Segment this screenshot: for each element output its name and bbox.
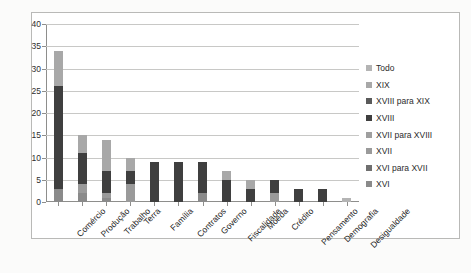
bar-segment[interactable] bbox=[102, 140, 111, 171]
bar-slot bbox=[46, 24, 70, 202]
bar-slot bbox=[142, 24, 166, 202]
bar-slot bbox=[190, 24, 214, 202]
bar-segment[interactable] bbox=[126, 158, 135, 171]
x-axis-tick-mark bbox=[203, 202, 204, 206]
bar-segment[interactable] bbox=[270, 180, 279, 193]
legend-label: Todo bbox=[376, 63, 394, 73]
bar-segment[interactable] bbox=[78, 135, 87, 153]
stacked-bar[interactable] bbox=[222, 171, 231, 202]
legend-swatch-icon bbox=[366, 132, 372, 138]
bar-slot bbox=[118, 24, 142, 202]
bar-segment[interactable] bbox=[78, 193, 87, 202]
bar-segment[interactable] bbox=[126, 171, 135, 184]
stacked-bar[interactable] bbox=[126, 158, 135, 202]
stacked-bar[interactable] bbox=[174, 162, 183, 202]
bar-slot bbox=[263, 24, 287, 202]
legend-label: XVII para XVIII bbox=[376, 130, 432, 140]
stacked-bar[interactable] bbox=[198, 162, 207, 202]
x-axis-tick-mark bbox=[347, 202, 348, 206]
y-axis-tick-label: 20 bbox=[11, 108, 41, 118]
y-axis-tick-label: 10 bbox=[11, 153, 41, 163]
bar-segment[interactable] bbox=[318, 189, 327, 202]
chart-screenshot: { "chart_data": { "type": "bar", "subtyp… bbox=[0, 0, 471, 273]
legend-swatch-icon bbox=[366, 98, 372, 104]
bar-segment[interactable] bbox=[150, 162, 159, 202]
x-axis-tick-mark bbox=[323, 202, 324, 206]
x-axis-tick-mark bbox=[251, 202, 252, 206]
bar-slot bbox=[287, 24, 311, 202]
legend-swatch-icon bbox=[366, 181, 372, 187]
x-axis-tick-mark bbox=[227, 202, 228, 206]
legend-item[interactable]: XVI bbox=[366, 176, 466, 193]
bar-slot bbox=[166, 24, 190, 202]
x-axis-tick-mark bbox=[130, 202, 131, 206]
stacked-bar[interactable] bbox=[54, 51, 63, 202]
x-axis-tick-mark bbox=[178, 202, 179, 206]
bar-series-group bbox=[46, 24, 359, 202]
bar-segment[interactable] bbox=[246, 180, 255, 189]
bar-slot bbox=[70, 24, 94, 202]
bar-segment[interactable] bbox=[78, 184, 87, 193]
legend-label: XVI bbox=[376, 179, 390, 189]
y-axis-tick-label: 5 bbox=[11, 175, 41, 185]
bar-segment[interactable] bbox=[222, 171, 231, 180]
legend-label: XVI para XVII bbox=[376, 163, 428, 173]
x-axis-tick-mark bbox=[106, 202, 107, 206]
legend-swatch-icon bbox=[366, 165, 372, 171]
bar-segment[interactable] bbox=[270, 193, 279, 202]
chart-legend: TodoXIXXVIII para XIXXVIIIXVII para XVII… bbox=[366, 60, 466, 193]
legend-swatch-icon bbox=[366, 65, 372, 71]
legend-swatch-icon bbox=[366, 82, 372, 88]
legend-item[interactable]: XVIII para XIX bbox=[366, 93, 466, 110]
bar-slot bbox=[94, 24, 118, 202]
stacked-bar[interactable] bbox=[270, 180, 279, 202]
stacked-bar[interactable] bbox=[150, 162, 159, 202]
bar-slot bbox=[215, 24, 239, 202]
stacked-bar[interactable] bbox=[102, 140, 111, 202]
scan-bleedthrough-artifact bbox=[60, 247, 420, 263]
x-axis-tick-mark bbox=[58, 202, 59, 206]
bar-segment[interactable] bbox=[54, 189, 63, 202]
bar-segment[interactable] bbox=[54, 51, 63, 87]
bar-segment[interactable] bbox=[294, 189, 303, 202]
stacked-bar[interactable] bbox=[246, 180, 255, 202]
plot-area bbox=[46, 24, 359, 202]
legend-item[interactable]: XVII para XVIII bbox=[366, 126, 466, 143]
stacked-bar[interactable] bbox=[78, 135, 87, 202]
stacked-bar[interactable] bbox=[294, 189, 303, 202]
y-axis-tick-mark bbox=[42, 202, 46, 203]
bar-segment[interactable] bbox=[126, 184, 135, 202]
legend-label: XVII bbox=[376, 146, 392, 156]
stacked-bar[interactable] bbox=[318, 189, 327, 202]
bar-slot bbox=[239, 24, 263, 202]
bar-segment[interactable] bbox=[222, 180, 231, 202]
bar-segment[interactable] bbox=[54, 86, 63, 188]
x-axis-tick-mark bbox=[299, 202, 300, 206]
legend-label: XVIII bbox=[376, 113, 394, 123]
y-axis-tick-label: 25 bbox=[11, 86, 41, 96]
bar-segment[interactable] bbox=[198, 162, 207, 193]
legend-item[interactable]: XVIII bbox=[366, 110, 466, 127]
legend-swatch-icon bbox=[366, 148, 372, 154]
legend-label: XIX bbox=[376, 80, 390, 90]
y-axis-tick-label: 35 bbox=[11, 41, 41, 51]
bar-segment[interactable] bbox=[78, 153, 87, 184]
legend-swatch-icon bbox=[366, 115, 372, 121]
y-axis-tick-label: 0 bbox=[11, 197, 41, 207]
bar-segment[interactable] bbox=[174, 162, 183, 202]
y-axis-tick-label: 40 bbox=[11, 19, 41, 29]
legend-item[interactable]: Todo bbox=[366, 60, 466, 77]
bar-slot bbox=[311, 24, 335, 202]
x-axis-tick-mark bbox=[82, 202, 83, 206]
y-axis-tick-label: 30 bbox=[11, 64, 41, 74]
y-axis-tick-label: 15 bbox=[11, 130, 41, 140]
bar-segment[interactable] bbox=[198, 193, 207, 202]
bar-slot bbox=[335, 24, 359, 202]
legend-item[interactable]: XVI para XVII bbox=[366, 160, 466, 177]
legend-item[interactable]: XVII bbox=[366, 143, 466, 160]
legend-label: XVIII para XIX bbox=[376, 96, 430, 106]
bar-segment[interactable] bbox=[102, 171, 111, 193]
legend-item[interactable]: XIX bbox=[366, 77, 466, 94]
bar-segment[interactable] bbox=[246, 189, 255, 202]
